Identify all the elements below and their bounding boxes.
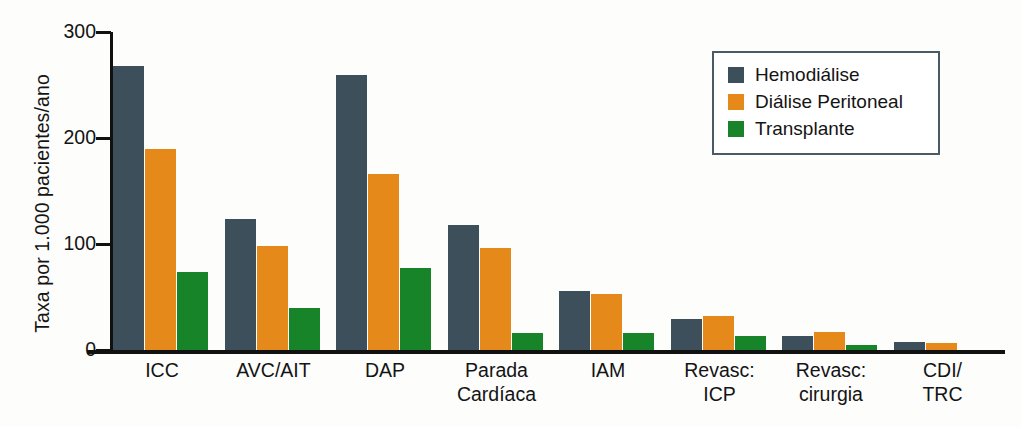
bar-chart: Taxa por 1.000 pacientes/ano 0100200300 …: [0, 0, 1021, 427]
bar: [336, 75, 367, 350]
bar: [257, 246, 288, 350]
bar-group: AVC/AIT: [225, 32, 337, 350]
y-tick-label: 200: [34, 126, 96, 149]
x-axis-line: [87, 350, 1005, 354]
bar: [145, 149, 176, 350]
bar: [400, 268, 431, 350]
bar: [448, 225, 479, 350]
bar: [591, 294, 622, 350]
y-axis-title: Taxa por 1.000 pacientes/ano: [31, 54, 54, 354]
y-tick-mark: [96, 349, 111, 352]
bar: [814, 332, 845, 350]
bar: [289, 308, 320, 350]
bar: [926, 343, 957, 350]
bar: [225, 219, 256, 350]
legend-item-dialise-peritoneal: Diálise Peritoneal: [728, 91, 924, 113]
x-axis-group-label: IAM: [591, 358, 626, 382]
bar: [368, 174, 399, 350]
legend-item-hemodialise: Hemodiálise: [728, 64, 924, 86]
bar-group: DAP: [336, 32, 448, 350]
bar-group: ICC: [113, 32, 225, 350]
bar: [559, 291, 590, 350]
x-axis-group-label: ICC: [145, 358, 179, 382]
bar: [177, 272, 208, 350]
y-tick-label: 100: [34, 232, 96, 255]
y-tick-label: 0: [34, 338, 96, 361]
y-tick-mark: [96, 243, 111, 246]
y-tick-mark: [96, 31, 111, 34]
x-axis-group-label: DAP: [365, 358, 405, 382]
legend-label-transplante: Transplante: [755, 118, 855, 140]
x-axis-group-label: Revasc: cirurgia: [796, 358, 866, 406]
legend-label-hemodialise: Hemodiálise: [755, 64, 860, 86]
bar: [512, 333, 543, 350]
bar: [480, 248, 511, 350]
bar: [113, 66, 144, 350]
bar: [703, 316, 734, 350]
x-axis-group-label: Revasc: ICP: [684, 358, 754, 406]
chart-legend: Hemodiálise Diálise Peritoneal Transplan…: [712, 51, 940, 155]
bar: [846, 345, 877, 350]
bar: [894, 342, 925, 350]
legend-swatch-hemodialise: [728, 67, 744, 83]
bar: [782, 336, 813, 350]
bar: [623, 333, 654, 350]
bar-group: Parada Cardíaca: [448, 32, 560, 350]
bar-group: IAM: [559, 32, 671, 350]
legend-swatch-transplante: [728, 121, 744, 137]
bar: [735, 336, 766, 350]
y-tick-mark: [96, 137, 111, 140]
legend-swatch-dialise-peritoneal: [728, 94, 744, 110]
y-tick-label: 300: [34, 20, 96, 43]
legend-label-dialise-peritoneal: Diálise Peritoneal: [755, 91, 903, 113]
x-axis-group-label: CDI/ TRC: [922, 358, 962, 406]
x-axis-group-label: AVC/AIT: [236, 358, 310, 382]
legend-item-transplante: Transplante: [728, 118, 924, 140]
bar: [671, 319, 702, 350]
x-axis-group-label: Parada Cardíaca: [457, 358, 536, 406]
